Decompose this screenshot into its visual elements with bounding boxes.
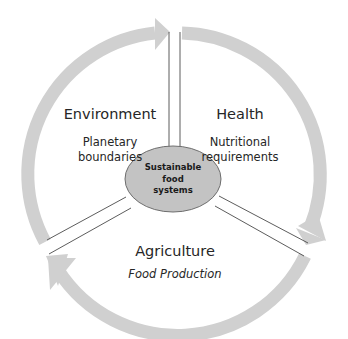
center-label: Sustainable food systems	[133, 162, 213, 197]
divider-top-icon	[169, 32, 180, 150]
food-systems-diagram: Environment Planetary boundaries Health …	[0, 0, 348, 339]
center-label-line: Sustainable	[133, 162, 213, 174]
section-subtitle-health: Nutritional requirements	[190, 135, 290, 165]
divider-right-icon	[215, 196, 308, 256]
center-label-line: food	[133, 174, 213, 186]
subtitle-line: Planetary	[60, 135, 160, 150]
section-title-agriculture: Agriculture	[125, 243, 225, 259]
section-subtitle-environment: Planetary boundaries	[60, 135, 160, 165]
subtitle-line: Nutritional	[190, 135, 290, 150]
divider-left-icon	[47, 197, 131, 254]
section-title-health: Health	[195, 106, 285, 122]
section-title-environment: Environment	[55, 106, 165, 122]
section-subtitle-agriculture: Food Production	[115, 267, 235, 282]
center-label-line: systems	[133, 185, 213, 197]
subtitle-line: Food Production	[115, 267, 235, 282]
arrow-environment-to-health-icon	[28, 18, 170, 242]
